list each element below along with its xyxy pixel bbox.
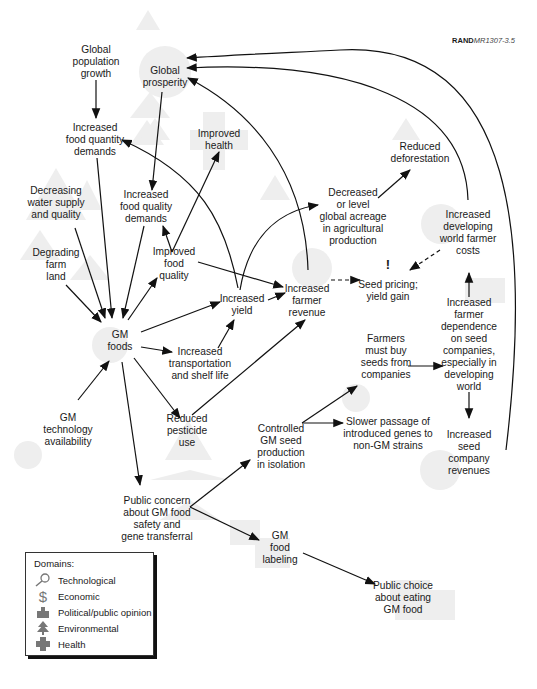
node-reduced-pesticide-use: Reduced pesticide use bbox=[167, 413, 208, 449]
node-gm-foods: GM foods bbox=[108, 329, 133, 353]
node-reduced-deforestation: Reduced deforestation bbox=[391, 141, 450, 165]
node-increased-farmer-dependence: Increased farmer dependence on seed comp… bbox=[441, 297, 497, 393]
legend-title: Domains: bbox=[34, 558, 74, 569]
node-gm-food-labeling: GM food labeling bbox=[262, 530, 297, 566]
node-farmers-must-buy-seeds: Farmers must buy seeds from companies bbox=[361, 333, 411, 381]
magnifier-icon bbox=[32, 572, 54, 588]
legend-label: Economic bbox=[58, 591, 100, 602]
legend-label: Technological bbox=[58, 575, 116, 586]
node-public-choice: Public choice about eating GM food bbox=[373, 580, 433, 616]
annotation-exclamation: ! bbox=[386, 257, 390, 272]
node-improved-health: Improved health bbox=[198, 128, 240, 152]
cross-icon bbox=[32, 636, 54, 652]
legend-label: Environmental bbox=[58, 623, 119, 634]
node-increased-developing-world-farmer-costs: Increased developing world farmer costs bbox=[440, 209, 497, 257]
node-increased-farmer-revenue: Increased farmer revenue bbox=[285, 283, 330, 319]
legend-label: Political/public opinion bbox=[58, 607, 151, 618]
node-controlled-gm-seed-production: Controlled GM seed production in isolati… bbox=[257, 423, 305, 471]
node-decreased-acreage: Decreased or level global acreage in agr… bbox=[320, 187, 387, 247]
dollar-icon: $ bbox=[32, 588, 54, 604]
legend: Domains: Technological $ Economic Politi… bbox=[25, 552, 154, 656]
node-public-concern: Public concern about GM food safety and … bbox=[121, 495, 192, 543]
tree-icon bbox=[32, 620, 54, 636]
legend-item-health: Health bbox=[32, 636, 85, 652]
node-increased-food-quality-demands: Increased food quality demands bbox=[120, 189, 172, 225]
edge-costs-to-seed-pricing-dashed bbox=[410, 250, 440, 270]
legend-item-economic: $ Economic bbox=[32, 588, 100, 604]
node-global-prosperity: Global prosperity bbox=[143, 65, 188, 89]
node-increased-yield: Increased yield bbox=[220, 293, 265, 317]
node-improved-food-quality: Improved food quality bbox=[153, 246, 195, 282]
node-slower-passage: Slower passage of introduced genes to no… bbox=[343, 416, 433, 452]
legend-label: Health bbox=[58, 639, 85, 650]
node-global-population-growth: Global population growth bbox=[72, 44, 119, 80]
edge-quantity-to-gm bbox=[97, 158, 112, 318]
node-degrading-farm-land: Degrading farm land bbox=[32, 247, 79, 283]
node-seed-pricing: Seed pricing; yield gain bbox=[358, 279, 417, 303]
capitol-icon bbox=[32, 604, 54, 620]
node-increased-transportation: Increased transportation and shelf life bbox=[169, 346, 231, 382]
node-gm-technology-availability: GM technology availability bbox=[43, 412, 92, 448]
node-decreasing-water-supply: Decreasing water supply and quality bbox=[27, 185, 84, 221]
node-increased-food-quantity-demands: Increased food quantity demands bbox=[66, 122, 124, 158]
node-increased-seed-company-revenues: Increased seed company revenues bbox=[447, 429, 492, 477]
legend-item-environmental: Environmental bbox=[32, 620, 119, 636]
edge-prosperity-to-quality bbox=[152, 92, 162, 190]
legend-item-political: Political/public opinion bbox=[32, 604, 151, 620]
figure-reference: RANDMR1307-3.5 bbox=[452, 36, 515, 45]
legend-item-technological: Technological bbox=[32, 572, 116, 588]
